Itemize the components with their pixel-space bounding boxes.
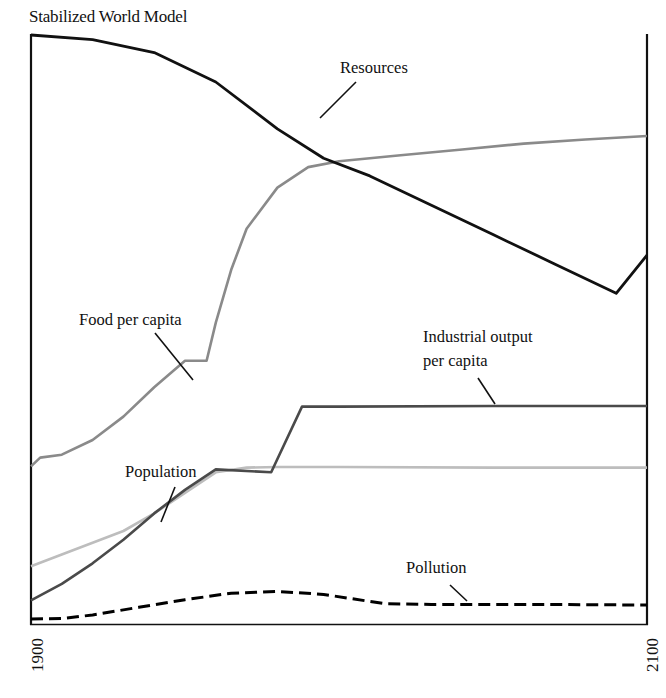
industrial-output-label-line2: per capita [423, 350, 488, 371]
industrial-output-per-capita-line [31, 406, 647, 600]
population-line [31, 467, 647, 566]
plot-area [0, 0, 666, 698]
resources-line [31, 35, 647, 293]
industrial-output-label-line1: Industrial output [423, 326, 533, 347]
pollution-line [31, 592, 647, 620]
resources-label: Resources [340, 57, 408, 78]
resources-leader-line [320, 82, 356, 118]
x-tick-2100: 2100 [643, 638, 663, 672]
pollution-label: Pollution [406, 557, 467, 578]
food-per-capita-line [31, 136, 647, 466]
industrial-leader-line [478, 378, 495, 404]
food-per-capita-label: Food per capita [79, 309, 182, 330]
food-leader-line [155, 333, 193, 380]
population-leader-line [161, 487, 175, 522]
pollution-leader-line [450, 585, 467, 601]
x-tick-1900: 1900 [28, 638, 48, 672]
population-label: Population [125, 461, 197, 482]
